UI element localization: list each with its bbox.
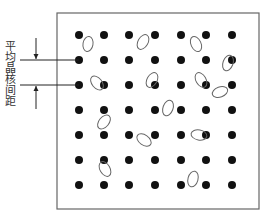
grain-ellipse [82, 36, 94, 53]
nucleus-dot [125, 56, 133, 64]
nucleus-dot [125, 31, 133, 39]
nucleus-dot [177, 106, 185, 114]
nucleus-dot [202, 106, 210, 114]
grain-ellipse [97, 160, 114, 179]
nucleus-dot [151, 181, 159, 189]
nucleus-dot [202, 156, 210, 164]
nucleus-dot [100, 81, 108, 89]
nucleus-dot [75, 31, 83, 39]
grain-ellipse [88, 74, 106, 93]
nucleus-dot [228, 31, 236, 39]
nucleus-dot [100, 131, 108, 139]
nucleus-dot [228, 156, 236, 164]
nucleus-dot [125, 181, 133, 189]
grain-ellipse [95, 113, 113, 132]
nucleus-dot [125, 131, 133, 139]
nucleus-dot [177, 131, 185, 139]
nucleus-dot [151, 131, 159, 139]
nucleus-dot [228, 81, 236, 89]
nucleus-dot [151, 56, 159, 64]
grain-ellipse [188, 35, 204, 54]
grain-ellipse [135, 33, 152, 52]
nucleus-dot [75, 106, 83, 114]
nucleus-dot [177, 56, 185, 64]
nucleus-dot [151, 156, 159, 164]
nucleus-dot [125, 156, 133, 164]
nucleus-dot [202, 31, 210, 39]
nucleus-dot [125, 106, 133, 114]
nucleus-dot [177, 31, 185, 39]
arrow-up-icon [34, 86, 39, 91]
nucleus-dot [202, 56, 210, 64]
grain-ellipse [161, 99, 176, 117]
nucleus-dot [100, 181, 108, 189]
nucleus-dot [177, 156, 185, 164]
nucleus-dot [125, 81, 133, 89]
nucleus-dot [100, 31, 108, 39]
nucleus-dot [228, 56, 236, 64]
nucleus-dot [228, 106, 236, 114]
grain-ellipse [135, 131, 154, 148]
nucleus-dot [75, 156, 83, 164]
nucleus-dot [228, 131, 236, 139]
nucleus-dot [75, 131, 83, 139]
grain-ellipse [211, 85, 229, 100]
nucleus-dot [228, 181, 236, 189]
nucleus-dot [151, 31, 159, 39]
nucleation-diagram [0, 0, 272, 223]
nucleus-dot [202, 181, 210, 189]
grain-ellipse [186, 170, 200, 188]
average-nucleus-spacing-label: 平均晶核间距 [2, 40, 16, 106]
nucleus-dot [100, 56, 108, 64]
spacing-dimension [20, 38, 79, 109]
nucleus-dot [100, 106, 108, 114]
arrow-down-icon [34, 54, 39, 59]
nucleus-dot [75, 181, 83, 189]
nucleus-dot [151, 106, 159, 114]
nucleus-dot [177, 181, 185, 189]
nucleus-dot [177, 81, 185, 89]
